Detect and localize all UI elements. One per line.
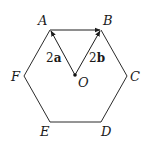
- label-2a: 2a: [46, 51, 62, 65]
- label-F: F: [10, 69, 21, 84]
- label-B: B: [102, 13, 113, 28]
- vector-name-a: a: [54, 51, 62, 65]
- hexagon-vector-diagram: A B C D E F O 2a 2b: [0, 0, 149, 143]
- label-O: O: [78, 75, 89, 90]
- label-2b: 2b: [89, 51, 105, 65]
- coef-2a: 2: [46, 51, 54, 65]
- label-D: D: [100, 124, 112, 139]
- label-C: C: [130, 69, 140, 84]
- label-A: A: [37, 13, 47, 28]
- coef-2b: 2: [89, 51, 97, 65]
- center-point-O: [73, 73, 77, 77]
- vector-name-b: b: [97, 51, 105, 65]
- label-E: E: [39, 124, 50, 139]
